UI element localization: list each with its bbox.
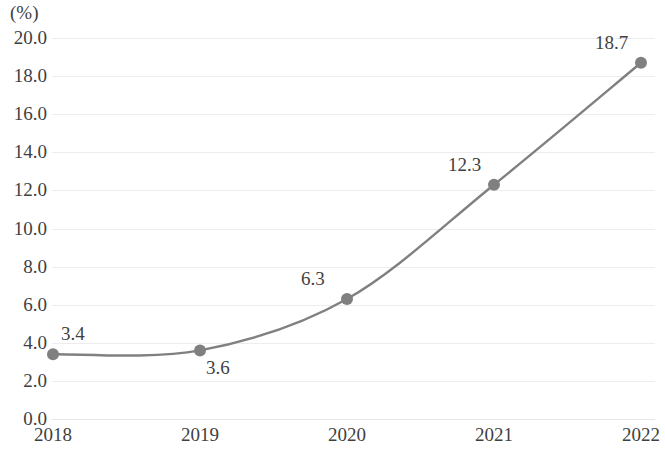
data-point-marker[interactable] [341, 293, 353, 305]
data-point-marker[interactable] [47, 348, 59, 360]
data-point-value-label: 3.4 [61, 324, 85, 344]
data-point-value-label: 18.7 [595, 33, 628, 53]
data-point-marker[interactable] [194, 344, 206, 356]
line-chart: (%) 20.018.016.014.012.010.08.06.04.02.0… [0, 0, 665, 451]
data-point-value-label: 6.3 [301, 269, 325, 289]
data-point-value-label: 12.3 [448, 155, 481, 175]
data-point-marker[interactable] [488, 179, 500, 191]
data-point-value-label: 3.6 [206, 358, 230, 378]
data-point-marker[interactable] [635, 57, 647, 69]
series-line [53, 63, 641, 356]
data-series-layer [0, 0, 665, 451]
